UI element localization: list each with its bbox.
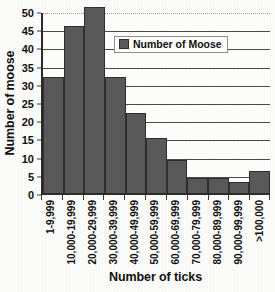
bar xyxy=(84,7,105,193)
y-axis-tick-label: 40 xyxy=(22,44,34,55)
x-axis-title: Number of ticks xyxy=(36,270,275,284)
x-axis-tick-label: >100,000 xyxy=(249,200,270,268)
bar xyxy=(64,26,85,193)
bar xyxy=(43,77,64,193)
y-axis-tick-label: 15 xyxy=(22,135,34,146)
x-axis-tick-label-text: 50,000-59,999 xyxy=(150,200,160,265)
bar xyxy=(187,178,208,193)
legend: Number of Moose xyxy=(114,36,228,53)
x-axis-tick-label-text: 90,000-99,999 xyxy=(234,200,244,265)
x-axis-tick-label-text: 30,000-39,999 xyxy=(109,200,119,265)
x-axis-tick-label-text: 60,000-69,999 xyxy=(171,200,181,265)
y-axis-tick-label: 50 xyxy=(22,8,34,19)
legend-label-number-of-moose: Number of Moose xyxy=(133,39,222,50)
y-axis-tick-label: 10 xyxy=(22,153,34,164)
x-axis-tick-label-text: >100,000 xyxy=(255,200,265,242)
x-axis-tick-label-text: 80,000-89,999 xyxy=(213,200,223,265)
x-axis-tick-label-text: 1-9,999 xyxy=(46,200,56,234)
legend-swatch-number-of-moose xyxy=(119,39,129,49)
y-axis-title: Number of moose xyxy=(0,0,20,205)
bar xyxy=(105,77,126,193)
y-axis-tick-label: 35 xyxy=(22,62,34,73)
x-axis-tick-label-text: 70,000-79,999 xyxy=(192,200,202,265)
bar xyxy=(249,171,270,193)
y-axis-title-text: Number of moose xyxy=(3,50,17,155)
x-axis-tick-label: 80,000-89,999 xyxy=(208,200,229,268)
chart-figure: Number of moose 05101520253035404550 Num… xyxy=(0,0,275,292)
x-axis-tick-label: 50,000-59,999 xyxy=(145,200,166,268)
x-axis-tick-label: 20,000-29,999 xyxy=(83,200,104,268)
y-axis-tick-label: 20 xyxy=(22,117,34,128)
x-axis-tick-label-text: 20,000-29,999 xyxy=(88,200,98,265)
bar xyxy=(229,182,250,193)
x-axis-tick-label: 60,000-69,999 xyxy=(166,200,187,268)
bar xyxy=(126,113,147,193)
y-axis-tick-labels: 05101520253035404550 xyxy=(18,0,38,205)
y-axis-tick-label: 25 xyxy=(22,99,34,110)
x-axis-tick-label: 70,000-79,999 xyxy=(187,200,208,268)
y-axis-tick-label: 45 xyxy=(22,26,34,37)
x-axis-tick-label: 40,000-49,999 xyxy=(124,200,145,268)
x-axis-tick-label-text: 10,000-19,999 xyxy=(67,200,77,265)
x-axis-tick-label: 10,000-19,999 xyxy=(62,200,83,268)
x-axis-tick-label: 30,000-39,999 xyxy=(103,200,124,268)
y-axis-tick-label: 5 xyxy=(28,171,34,182)
x-axis-tick-labels: 1-9,99910,000-19,99920,000-29,99930,000-… xyxy=(41,200,270,268)
bar xyxy=(208,178,229,193)
x-axis-tick-label: 1-9,999 xyxy=(41,200,62,268)
bar xyxy=(167,160,188,193)
bar xyxy=(146,138,167,193)
y-axis-tick-label: 0 xyxy=(28,190,34,201)
x-axis-tick-label: 90,000-99,999 xyxy=(228,200,249,268)
x-axis-tick-label-text: 40,000-49,999 xyxy=(130,200,140,265)
y-axis-tick-label: 30 xyxy=(22,80,34,91)
